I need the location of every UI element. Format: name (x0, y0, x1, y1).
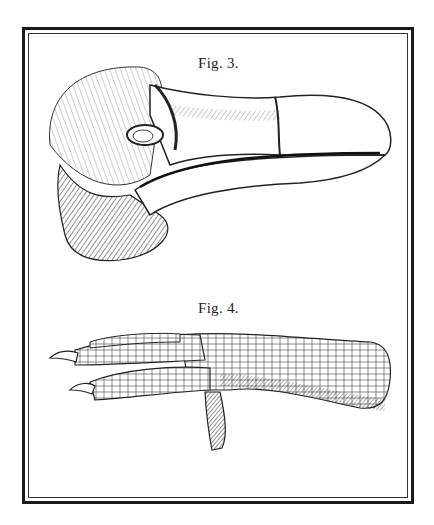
fig3-head-illustration (40, 55, 400, 265)
fig4-caption: Fig. 4. (198, 300, 239, 317)
fig4-foot-illustration (40, 320, 400, 460)
